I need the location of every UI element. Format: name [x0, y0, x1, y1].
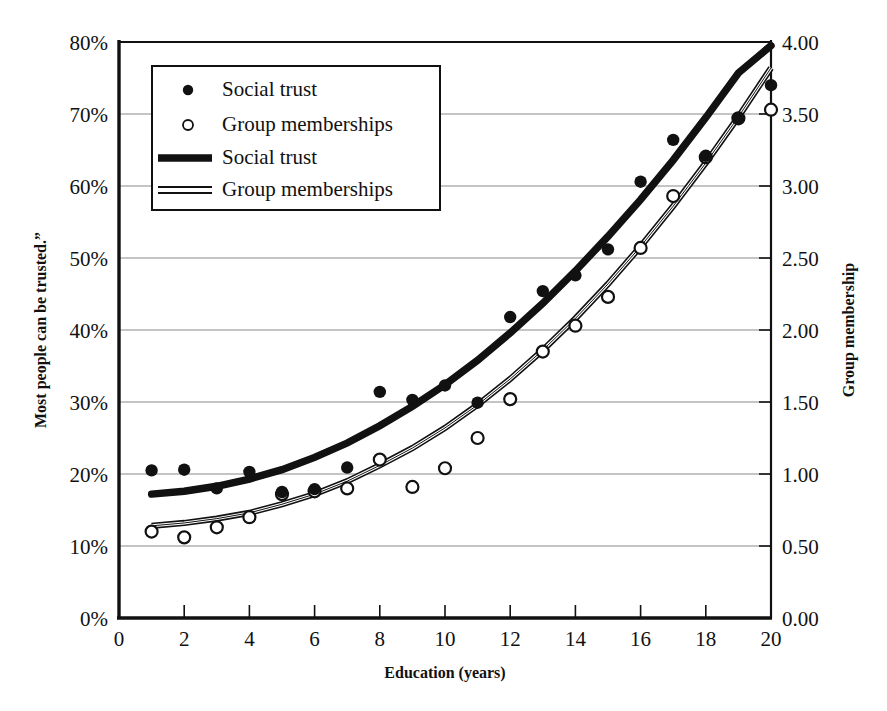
social-trust-point [374, 386, 386, 398]
y-tick-label: 10% [70, 535, 109, 559]
social-trust-point [243, 466, 255, 478]
y2-tick-label: 2.00 [782, 319, 819, 343]
y-axis-title: Most people can be trusted.” [32, 232, 50, 428]
x-tick-label: 0 [114, 627, 125, 651]
group-memberships-point [765, 104, 777, 116]
social-trust-point [308, 483, 320, 495]
social-trust-point [471, 397, 483, 409]
y2-tick-label: 3.50 [782, 103, 819, 127]
x-tick-label: 2 [179, 627, 190, 651]
y2-tick-label: 1.50 [782, 391, 819, 415]
chart-figure: 0%10%20%30%40%50%60%70%80% 0.000.501.001… [0, 0, 887, 711]
social-trust-point [504, 311, 516, 323]
group-memberships-point [635, 242, 647, 254]
social-trust-point [700, 150, 712, 162]
x-tick-label: 4 [244, 627, 255, 651]
legend-open-circle-icon [183, 120, 193, 130]
social-trust-point [634, 175, 646, 187]
group-memberships-point [374, 454, 386, 466]
group-memberships-point [341, 482, 353, 494]
y2-tick-label: 0.50 [782, 535, 819, 559]
y2-tick-label: 0.00 [782, 607, 819, 631]
group-memberships-point [602, 291, 614, 303]
y-tick-label: 60% [70, 175, 109, 199]
x-axis-title: Education (years) [384, 664, 505, 682]
social-trust-point [537, 285, 549, 297]
social-trust-point [145, 464, 157, 476]
y-tick-label: 40% [70, 319, 109, 343]
x-tick-label: 12 [500, 627, 521, 651]
x-tick-label: 10 [435, 627, 456, 651]
y2-tick-label: 4.00 [782, 31, 819, 55]
social-trust-point [569, 269, 581, 281]
x-tick-label: 14 [565, 627, 587, 651]
social-trust-point [732, 112, 744, 124]
group-memberships-point [243, 511, 255, 523]
legend-entry-label: Group memberships [222, 112, 393, 136]
legend-entry-label: Group memberships [222, 177, 393, 201]
social-trust-point [406, 394, 418, 406]
social-trust-point [667, 134, 679, 146]
y-tick-label: 30% [70, 391, 109, 415]
x-tick-label: 6 [309, 627, 320, 651]
social-trust-point [765, 79, 777, 91]
social-trust-point [439, 379, 451, 391]
y2-tick-label: 3.00 [782, 175, 819, 199]
social-trust-point [341, 461, 353, 473]
x-tick-label: 16 [630, 627, 651, 651]
x-tick-label: 18 [695, 627, 716, 651]
group-memberships-point [178, 531, 190, 543]
group-memberships-point [406, 481, 418, 493]
social-trust-point [602, 243, 614, 255]
y2-tick-label: 2.50 [782, 247, 819, 271]
y-tick-label: 0% [80, 607, 108, 631]
social-trust-point [211, 482, 223, 494]
y-axis-tick-labels: 0%10%20%30%40%50%60%70%80% [70, 31, 109, 631]
y-tick-label: 20% [70, 463, 109, 487]
y-tick-label: 50% [70, 247, 109, 271]
education-trust-membership-chart: 0%10%20%30%40%50%60%70%80% 0.000.501.001… [0, 0, 887, 711]
y2-axis-title: Group membership [840, 263, 858, 397]
group-memberships-point [504, 393, 516, 405]
group-memberships-point [439, 462, 451, 474]
y-tick-label: 70% [70, 103, 109, 127]
y-tick-label: 80% [70, 31, 109, 55]
legend-filled-circle-icon [183, 85, 193, 95]
x-tick-label: 8 [375, 627, 386, 651]
chart-background [0, 0, 887, 711]
group-memberships-point [146, 526, 158, 538]
social-trust-point [178, 463, 190, 475]
legend-entry-label: Social trust [222, 77, 317, 101]
group-memberships-point [537, 346, 549, 358]
group-memberships-point [569, 320, 581, 332]
y2-tick-label: 1.00 [782, 463, 819, 487]
group-memberships-point [211, 521, 223, 533]
legend-entry-label: Social trust [222, 145, 317, 169]
legend: Social trustGroup membershipsSocial trus… [152, 66, 440, 210]
group-memberships-point [472, 432, 484, 444]
y2-axis-tick-labels: 0.000.501.001.502.002.503.003.504.00 [782, 31, 819, 631]
social-trust-point [276, 486, 288, 498]
group-memberships-point [667, 190, 679, 202]
x-tick-label: 20 [761, 627, 782, 651]
